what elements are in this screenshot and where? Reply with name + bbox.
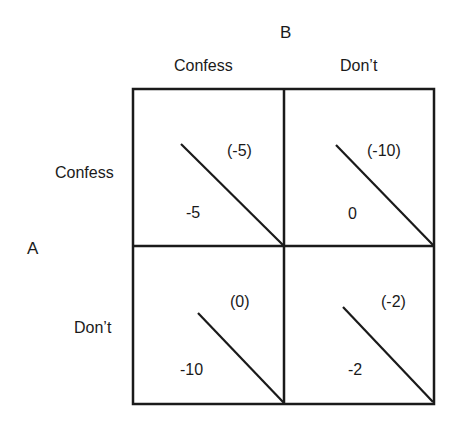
diagonal-dont-confess (198, 313, 284, 403)
payoff-a-dont-dont: -2 (348, 362, 362, 378)
diagonal-dont-dont (343, 307, 433, 402)
payoff-grid (0, 0, 457, 434)
diagonal-confess-dont (336, 145, 433, 245)
payoff-b-confess-dont: (-10) (367, 143, 401, 159)
payoff-b-confess-confess: (-5) (227, 143, 252, 159)
diagonal-confess-confess (181, 144, 284, 246)
payoff-a-dont-confess: -10 (180, 362, 203, 378)
payoff-b-dont-confess: (0) (230, 294, 250, 310)
payoff-a-confess-confess: -5 (186, 205, 200, 221)
payoff-a-confess-dont: 0 (348, 206, 357, 222)
payoff-b-dont-dont: (-2) (381, 294, 406, 310)
